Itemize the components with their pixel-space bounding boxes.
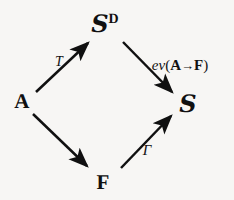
edge-a-to-f <box>33 114 87 166</box>
ev-prefix: ev <box>152 57 165 73</box>
right-arrow-icon: → <box>181 58 194 73</box>
node-script-s-d-base: S <box>91 9 108 38</box>
node-a: A <box>14 91 29 112</box>
edge-label-ev: ev(A→F) <box>152 58 208 73</box>
node-script-s: S <box>179 92 196 116</box>
edge-label-gamma: Γ <box>143 143 152 158</box>
edge-label-t: T <box>55 55 63 69</box>
node-script-s-d-superscript: D <box>109 12 119 27</box>
commutative-diagram: SD A S F T ev(A→F) Γ <box>0 0 234 200</box>
ev-close-paren: ) <box>203 57 208 73</box>
node-f: F <box>96 172 109 193</box>
node-script-s-d: SD <box>91 12 118 36</box>
ev-target: F <box>194 57 203 73</box>
ev-source: A <box>170 57 181 73</box>
